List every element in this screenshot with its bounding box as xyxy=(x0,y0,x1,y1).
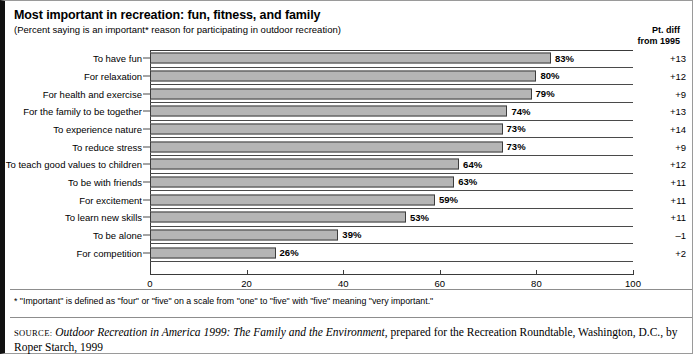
x-axis-tick-label: 100 xyxy=(625,278,641,289)
bar-row: For relaxation80%+12 xyxy=(150,68,633,86)
pt-diff-header-line-2: from 1995 xyxy=(637,36,680,47)
bar-row: To be alone39%–1 xyxy=(150,227,633,245)
bar: 74% xyxy=(150,106,507,117)
category-label: For the family to be together xyxy=(23,106,142,117)
pt-diff-value: +11 xyxy=(633,212,686,223)
y-axis-tick xyxy=(143,217,150,218)
bar-row: For competition26%+2 xyxy=(150,244,633,262)
pt-diff-value: +9 xyxy=(633,88,686,99)
x-axis-tick xyxy=(247,270,248,275)
pt-diff-value: +13 xyxy=(633,106,686,117)
bar: 79% xyxy=(150,88,532,99)
bar: 83% xyxy=(150,53,551,64)
category-label: To be with friends xyxy=(68,176,142,187)
y-axis-tick xyxy=(143,234,150,235)
y-axis-tick xyxy=(143,93,150,94)
bar: 39% xyxy=(150,229,338,240)
bar-value-label: 26% xyxy=(280,247,299,258)
y-axis-tick xyxy=(143,164,150,165)
pt-diff-value: –1 xyxy=(633,229,686,240)
bar: 63% xyxy=(150,176,454,187)
chart-subtitle: (Percent saying is an important* reason … xyxy=(14,24,341,35)
bar-row: To reduce stress73%+9 xyxy=(150,138,633,156)
bar: 64% xyxy=(150,159,459,170)
bar-value-label: 64% xyxy=(463,159,482,170)
x-axis-tick xyxy=(440,270,441,275)
category-label: For competition xyxy=(77,247,142,258)
plot-area: To have fun83%+13For relaxation80%+12For… xyxy=(150,50,633,275)
x-axis-tick xyxy=(536,270,537,275)
bar-rows: To have fun83%+13For relaxation80%+12For… xyxy=(150,50,633,262)
footnote-text: * "Important" is defined as "four" or "f… xyxy=(14,296,433,306)
bar-value-label: 74% xyxy=(511,106,530,117)
x-axis-tick xyxy=(633,270,634,275)
category-label: To experience nature xyxy=(53,123,142,134)
pt-diff-value: +13 xyxy=(633,53,686,64)
source-title: Outdoor Recreation in America 1999: The … xyxy=(55,326,385,338)
source-divider xyxy=(10,317,692,318)
y-axis-tick xyxy=(143,58,150,59)
y-axis-tick xyxy=(143,252,150,253)
bar-row: To learn new skills53%+11 xyxy=(150,209,633,227)
category-label: To learn new skills xyxy=(65,212,142,223)
y-axis-tick xyxy=(143,199,150,200)
bar: 73% xyxy=(150,141,503,152)
x-axis-tick-label: 0 xyxy=(147,278,152,289)
category-label: For health and exercise xyxy=(43,88,142,99)
pt-diff-value: +14 xyxy=(633,123,686,134)
y-axis-tick xyxy=(143,111,150,112)
pt-diff-value: +9 xyxy=(633,141,686,152)
bar-row: To teach good values to children64%+12 xyxy=(150,156,633,174)
bar: 80% xyxy=(150,70,536,81)
x-axis-tick xyxy=(150,270,151,275)
bar-value-label: 79% xyxy=(536,88,555,99)
y-axis-tick xyxy=(143,181,150,182)
x-axis-ticks: 020406080100 xyxy=(150,262,633,275)
bar-row: For the family to be together74%+13 xyxy=(150,103,633,121)
bar-value-label: 39% xyxy=(342,229,361,240)
pt-diff-column-header: Pt. diff from 1995 xyxy=(637,25,680,47)
y-axis-tick xyxy=(143,75,150,76)
bar-value-label: 80% xyxy=(540,70,559,81)
bar-value-label: 53% xyxy=(410,212,429,223)
bar: 59% xyxy=(150,194,435,205)
x-axis-tick xyxy=(343,270,344,275)
category-label: To reduce stress xyxy=(72,141,142,152)
source-keyword: Source: xyxy=(14,328,52,338)
footnote-divider xyxy=(10,289,692,290)
chart-title: Most important in recreation: fun, fitne… xyxy=(14,8,320,22)
x-axis-tick-label: 80 xyxy=(531,278,542,289)
bar-row: To be with friends63%+11 xyxy=(150,174,633,192)
chart-figure: Most important in recreation: fun, fitne… xyxy=(0,0,693,354)
pt-diff-value: +11 xyxy=(633,176,686,187)
bar-value-label: 73% xyxy=(507,141,526,152)
x-axis-tick-label: 20 xyxy=(241,278,252,289)
bar: 53% xyxy=(150,212,406,223)
pt-diff-header-line-1: Pt. diff xyxy=(637,25,680,36)
bar-row: For health and exercise79%+9 xyxy=(150,85,633,103)
y-axis-tick xyxy=(143,128,150,129)
category-label: To have fun xyxy=(93,53,142,64)
bar-row: For excitement59%+11 xyxy=(150,191,633,209)
bar: 73% xyxy=(150,123,503,134)
bar-value-label: 73% xyxy=(507,123,526,134)
pt-diff-value: +12 xyxy=(633,70,686,81)
category-label: For excitement xyxy=(79,194,142,205)
pt-diff-value: +12 xyxy=(633,159,686,170)
category-label: For relaxation xyxy=(84,70,142,81)
bar-value-label: 83% xyxy=(555,53,574,64)
x-axis-tick-label: 60 xyxy=(435,278,446,289)
category-label: To teach good values to children xyxy=(6,159,142,170)
pt-diff-value: +11 xyxy=(633,194,686,205)
source-line: Source: Outdoor Recreation in America 19… xyxy=(14,325,683,354)
bar-row: To experience nature73%+14 xyxy=(150,121,633,139)
pt-diff-value: +2 xyxy=(633,247,686,258)
bar-value-label: 63% xyxy=(458,176,477,187)
category-label: To be alone xyxy=(93,229,142,240)
x-axis-tick-label: 40 xyxy=(338,278,349,289)
y-axis-tick xyxy=(143,146,150,147)
bar-value-label: 59% xyxy=(439,194,458,205)
bar: 26% xyxy=(150,247,276,258)
bar-row: To have fun83%+13 xyxy=(150,50,633,68)
